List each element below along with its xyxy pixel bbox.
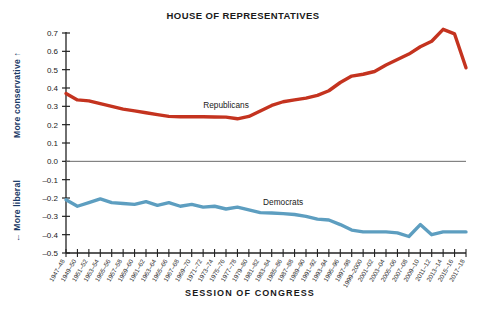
y-axis: 0.70.60.50.40.30.20.10.0–0.1–0.2–0.3–0.4…	[42, 29, 70, 258]
chart-container: HOUSE OF REPRESENTATIVES More conservati…	[0, 0, 486, 315]
series-line-republicans	[66, 29, 466, 118]
y-tick-label: 0.2	[47, 121, 59, 130]
y-tick-label: 0.3	[47, 102, 59, 111]
y-tick-label: –0.2	[42, 194, 58, 203]
series-annotation-democrats: Democrats	[263, 197, 303, 207]
series-annotation-republicans: Republicans	[203, 100, 249, 110]
x-axis-title: SESSION OF CONGRESS	[40, 288, 460, 298]
chart-plot-area: 0.70.60.50.40.30.20.10.0–0.1–0.2–0.3–0.4…	[0, 0, 486, 315]
y-tick-label: –0.3	[42, 212, 58, 221]
y-tick-label: 0.5	[47, 66, 59, 75]
y-tick-label: –0.4	[42, 231, 58, 240]
x-axis: 1947–481949–501951–521953–541955–561957–…	[48, 249, 467, 289]
y-tick-label: 0.0	[47, 157, 59, 166]
y-tick-label: 0.4	[47, 84, 59, 93]
y-tick-label: –0.1	[42, 176, 58, 185]
y-tick-label: 0.7	[47, 29, 59, 38]
y-tick-label: 0.6	[47, 47, 59, 56]
y-tick-label: –0.5	[42, 249, 58, 258]
y-tick-label: 0.1	[47, 139, 59, 148]
